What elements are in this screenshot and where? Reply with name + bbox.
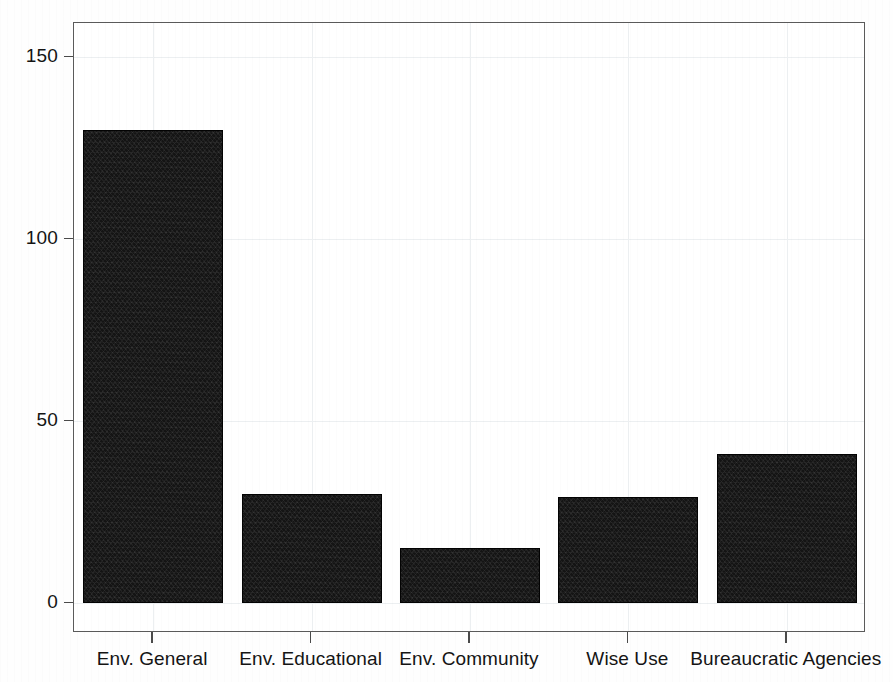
y-tick-mark-50 [64, 420, 73, 422]
x-tick-label: Bureaucratic Agencies [690, 648, 881, 670]
gridline-y-150 [74, 57, 864, 58]
y-tick-label: 150 [26, 46, 58, 65]
bar [242, 494, 382, 603]
y-tick-mark-100 [64, 238, 73, 240]
bar [83, 130, 223, 603]
y-tick-label: 100 [26, 228, 58, 247]
bar [558, 497, 698, 603]
x-tick-mark-0 [151, 632, 153, 643]
bar [400, 548, 540, 603]
x-tick-mark-1 [310, 632, 312, 643]
y-tick-label: 0 [47, 592, 58, 611]
x-tick-label: Env. Educational [239, 648, 382, 670]
y-tick-label: 50 [36, 410, 58, 429]
x-tick-mark-4 [785, 632, 787, 643]
gridline-x-2 [470, 23, 471, 631]
x-tick-label: Env. General [97, 648, 208, 670]
y-axis-labels: 150100500 [0, 0, 58, 682]
x-tick-mark-3 [627, 632, 629, 643]
y-tick-mark-150 [64, 56, 73, 58]
gridline-y-0 [74, 603, 864, 604]
plot-area [73, 22, 865, 632]
bar [717, 454, 857, 603]
y-tick-mark-0 [64, 602, 73, 604]
bar-chart-figure: 150100500 Env. GeneralEnv. EducationalEn… [0, 0, 893, 682]
x-tick-mark-2 [468, 632, 470, 643]
x-tick-label: Wise Use [586, 648, 668, 670]
x-tick-label: Env. Community [399, 648, 538, 670]
